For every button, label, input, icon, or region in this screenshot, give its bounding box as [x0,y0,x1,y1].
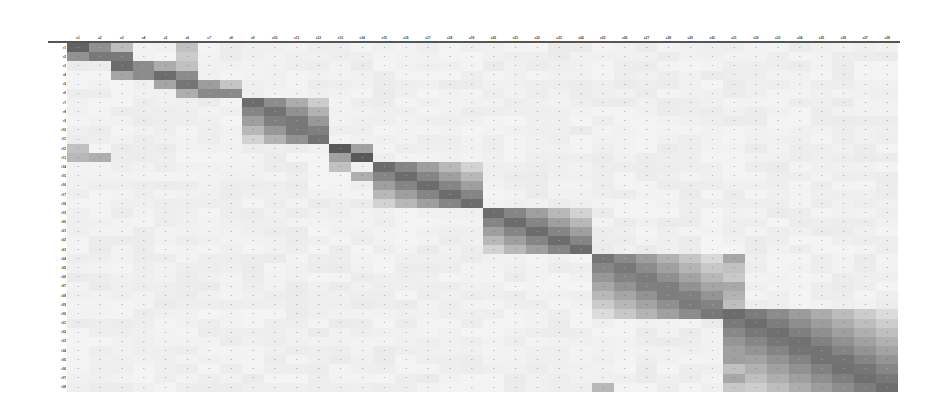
column-label: c10 [264,14,286,41]
heatmap-cell: • [286,383,308,393]
heatmap-cell: • [592,383,614,393]
column-label: c30 [701,14,723,41]
column-header: c1c2c3c4c5c6c7c8c9c10c11c12c13c14c15c16c… [67,14,898,41]
heatmap-cell: • [789,383,811,393]
column-label: c17 [417,14,439,41]
heatmap-cell: • [264,383,286,393]
column-label: c15 [373,14,395,41]
heatmap-cell: • [876,383,898,393]
heatmap-cell: • [832,383,854,393]
heatmap-cell: • [614,383,636,393]
column-label: c16 [395,14,417,41]
column-label: c28 [657,14,679,41]
heatmap-cell: • [351,383,373,393]
row-label: r17 [2,190,66,199]
heatmap-cell: • [439,383,461,393]
heatmap-cell: • [854,383,876,393]
column-label: c27 [636,14,658,41]
column-label: c11 [286,14,308,41]
row-label: r11 [2,135,66,144]
column-label: c20 [483,14,505,41]
heatmap-figure: c1c2c3c4c5c6c7c8c9c10c11c12c13c14c15c16c… [0,0,929,418]
row-label: r34 [2,346,66,355]
row-label: r31 [2,319,66,328]
heatmap-cell: • [67,383,89,393]
row-label: r3 [2,61,66,70]
heatmap-cell: • [701,383,723,393]
column-label: c38 [876,14,898,41]
row-label: r30 [2,309,66,318]
row-label: r37 [2,374,66,383]
column-label: c35 [811,14,833,41]
column-label: c37 [854,14,876,41]
row-label: r14 [2,162,66,171]
row-label: r22 [2,236,66,245]
row-label: r5 [2,80,66,89]
heatmap-cell: • [176,383,198,393]
heatmap-cell: • [723,383,745,393]
column-label: c23 [548,14,570,41]
heatmap-cell: • [89,383,111,393]
column-label: c14 [351,14,373,41]
row-label: r16 [2,181,66,190]
row-label: r20 [2,218,66,227]
column-label: c12 [308,14,330,41]
row-label: r33 [2,337,66,346]
column-label: c9 [242,14,264,41]
heatmap-cell: • [308,383,330,393]
column-label: c19 [461,14,483,41]
row-label: r36 [2,364,66,373]
row-label: r28 [2,291,66,300]
column-label: c22 [526,14,548,41]
row-label: r4 [2,71,66,80]
heatmap-cell: • [133,383,155,393]
row-label: r21 [2,227,66,236]
heatmap-cell: • [636,383,658,393]
row-label: r23 [2,245,66,254]
heatmap-cell: • [373,383,395,393]
column-label: c32 [745,14,767,41]
row-label: r13 [2,153,66,162]
row-label: r24 [2,254,66,263]
row-label: r9 [2,116,66,125]
column-label: c1 [67,14,89,41]
column-label: c5 [154,14,176,41]
column-label: c29 [679,14,701,41]
column-label: c33 [767,14,789,41]
column-label: c6 [176,14,198,41]
column-label: c7 [198,14,220,41]
heatmap-cell: • [657,383,679,393]
heatmap-cell: • [154,383,176,393]
column-label: c25 [592,14,614,41]
row-label: r35 [2,355,66,364]
heatmap-cell: • [461,383,483,393]
column-label: c31 [723,14,745,41]
column-label: c26 [614,14,636,41]
column-label: c34 [789,14,811,41]
heatmap-cell: • [679,383,701,393]
row-label: r29 [2,300,66,309]
row-label: r25 [2,263,66,272]
row-label: r8 [2,107,66,116]
row-label: r38 [2,383,66,392]
heatmap-cell: • [417,383,439,393]
heatmap-cell: • [767,383,789,393]
column-label: c8 [220,14,242,41]
column-label: c13 [329,14,351,41]
column-label: c2 [89,14,111,41]
row-label: r2 [2,52,66,61]
row-label: r15 [2,172,66,181]
heatmap-cell: • [745,383,767,393]
heatmap-cell: • [220,383,242,393]
row-label: r12 [2,144,66,153]
row-label: r18 [2,199,66,208]
column-label: c3 [111,14,133,41]
row-label: r26 [2,273,66,282]
column-label: c36 [832,14,854,41]
row-label: r6 [2,89,66,98]
heatmap-cell: • [504,383,526,393]
column-label: c18 [439,14,461,41]
heatmap-cell: • [395,383,417,393]
column-label: c24 [570,14,592,41]
column-label: c4 [133,14,155,41]
